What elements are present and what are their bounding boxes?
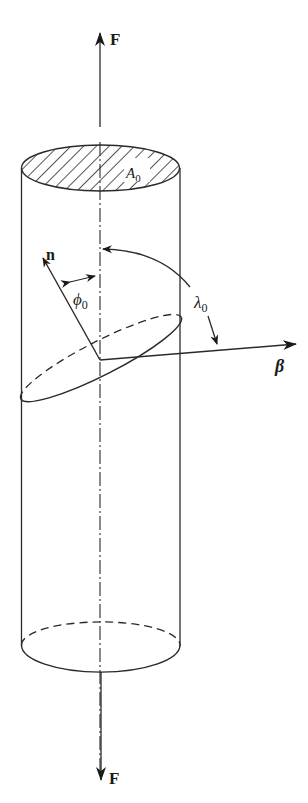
phi-angle-arrow (70, 276, 95, 282)
slip-plane (13, 302, 189, 414)
normal-label: n (46, 246, 55, 263)
schmid-diagram: F A0 F n ϕ0 β λ0 (0, 0, 308, 803)
cross-section-area (20, 143, 182, 193)
phi-label: ϕ0 (73, 290, 88, 312)
lambda-angle-arc (103, 249, 190, 287)
force-label-top: F (110, 30, 120, 49)
force-label-bottom: F (109, 769, 119, 788)
lambda-pointer-arrow (208, 316, 217, 344)
lambda-label: λ0 (193, 293, 207, 315)
slip-direction-label: β (274, 356, 285, 376)
cylinder-bottom-ellipse (22, 622, 181, 672)
slip-direction-arrow (100, 344, 296, 360)
normal-vector-arrow (43, 258, 100, 360)
